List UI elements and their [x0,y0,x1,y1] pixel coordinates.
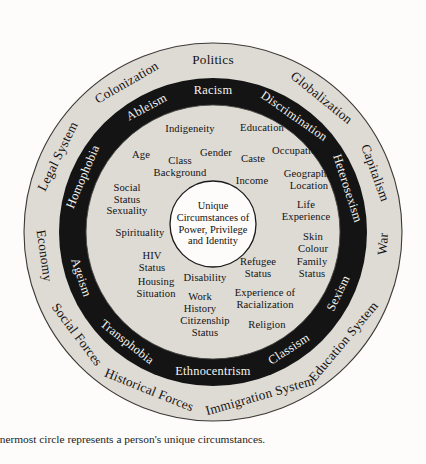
outer-ring-label-war: War [374,232,391,256]
identity-label-experience-of-racialization: Experience of Racialization [235,287,295,310]
diagram-stage: PoliticsGlobalizationCapitalismWarEducat… [0,0,426,464]
identity-label-spirituality: Spirituality [116,227,165,239]
dark-ring-label-racism: Racism [194,83,233,97]
identity-label-occupation: Occupation [272,145,322,157]
identity-label-disability: Disability [184,272,227,284]
identity-label-age: Age [132,149,150,161]
identity-label-education: Education [240,122,284,134]
identity-label-class-background: Class Background [154,155,207,178]
identity-label-work-history: Work History [184,291,216,314]
identity-label-social-status-sexuality: Social Status Sexuality [107,182,148,217]
identity-label-geographic-location: Geographic Location [284,168,334,191]
identity-label-skin-colour: Skin Colour [298,231,328,254]
outer-ring-label-politics: Politics [192,52,234,67]
identity-label-caste: Caste [241,153,265,165]
identity-label-income: Income [236,175,268,187]
dark-ring-label-ethnocentrism: Ethnocentrism [175,364,251,378]
identity-label-indigeneity: Indigeneity [165,123,214,135]
identity-label-hiv-status: HIV Status [139,250,166,273]
figure-caption: nnermost circle represents a person's un… [0,432,426,446]
identity-label-citizenship-status: Citizenship Status [180,315,229,338]
identity-label-life-experience: Life Experience [282,199,331,222]
identity-label-housing-situation: Housing Situation [136,276,175,299]
identity-label-family-status: Family Status [297,256,328,279]
identity-label-religion: Religion [248,319,285,331]
identity-label-refugee-status: Refugee Status [240,256,276,279]
core-circle-label: Unique Circumstances of Power, Privilege… [167,200,259,247]
